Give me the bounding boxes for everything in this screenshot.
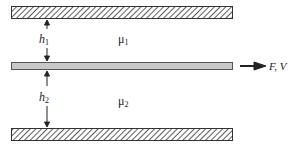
h2-label: h2 xyxy=(39,90,49,105)
mu2-label: μ2 xyxy=(118,94,128,109)
h1-label: h1 xyxy=(39,32,49,47)
two-fluid-layer-diagram: h1 h2 μ1 μ2 F, V xyxy=(0,0,299,156)
mu1-label: μ1 xyxy=(118,32,128,47)
bottom-fixed-wall xyxy=(12,129,233,141)
top-fixed-wall xyxy=(12,7,233,19)
force-velocity-label: F, V xyxy=(268,60,288,72)
force-arrow-icon xyxy=(240,62,266,70)
moving-plate xyxy=(12,63,233,70)
